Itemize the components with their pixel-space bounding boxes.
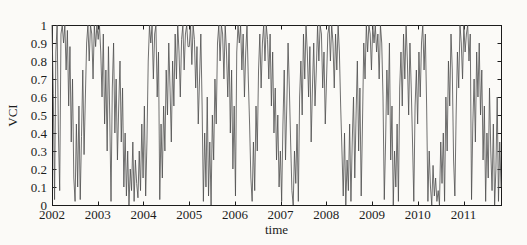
y-tick-label: 1 bbox=[41, 18, 48, 33]
vci-time-series-figure: 00.10.20.30.40.50.60.70.80.9120022003200… bbox=[0, 0, 527, 245]
y-tick-label: 0.6 bbox=[31, 90, 48, 105]
y-tick-label: 0.4 bbox=[31, 126, 48, 141]
y-tick-label: 0.5 bbox=[31, 108, 47, 123]
x-tick-label: 2010 bbox=[405, 207, 431, 222]
vci-line bbox=[52, 25, 501, 205]
y-tick-label: 0.3 bbox=[31, 144, 47, 159]
vci-time-series-chart: 00.10.20.30.40.50.60.70.80.9120022003200… bbox=[0, 0, 527, 245]
y-tick-label: 0.1 bbox=[31, 180, 47, 195]
x-tick-label: 2004 bbox=[130, 207, 157, 222]
y-tick-label: 0.9 bbox=[31, 36, 47, 51]
y-tick-label: 0.7 bbox=[31, 72, 48, 87]
x-tick-label: 2009 bbox=[359, 207, 385, 222]
x-tick-label: 2011 bbox=[451, 207, 477, 222]
x-axis-label: time bbox=[52, 223, 501, 236]
y-tick-label: 0.2 bbox=[31, 162, 47, 177]
x-tick-label: 2007 bbox=[268, 207, 295, 222]
x-tick-label: 2005 bbox=[176, 207, 202, 222]
x-tick-label: 2006 bbox=[222, 207, 249, 222]
x-tick-label: 2003 bbox=[85, 207, 111, 222]
y-axis-label: VCI bbox=[6, 92, 19, 140]
plot-box bbox=[53, 26, 502, 206]
y-tick-label: 0.8 bbox=[31, 54, 47, 69]
x-tick-label: 2008 bbox=[313, 207, 339, 222]
x-tick-label: 2002 bbox=[39, 207, 65, 222]
